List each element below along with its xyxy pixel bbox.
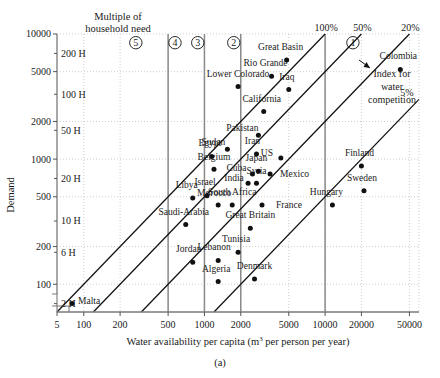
annotation-line1: Index for [374,68,412,79]
data-point-pakistan[interactable] [256,133,261,138]
data-point-libya[interactable] [190,195,195,200]
point-label-mexico: Mexico [280,169,309,179]
data-point-japan[interactable] [256,169,261,174]
x-axis-title: Water availability per capita (m3 per pe… [126,335,350,348]
household-multiple-label: 200 H [61,48,86,59]
data-point-rio-grande[interactable] [269,74,274,79]
index-arrow-head [364,62,371,68]
point-label-california: California [242,94,281,104]
annotation-line3: competition [368,94,416,105]
data-point-finland[interactable] [359,164,364,169]
data-point-tunisia[interactable] [236,250,241,255]
data-point-syria[interactable] [254,181,259,186]
band-index-label: 5 [133,37,138,48]
data-point-south-africa[interactable] [230,202,235,207]
data-point-lower-colorado[interactable] [236,84,241,89]
annotation-line2: water [381,81,404,92]
ratio-line-label: 20% [401,22,419,33]
point-label-israel: Israel [194,177,215,187]
x-tick-label: 2000 [231,319,251,330]
data-point-sudan[interactable] [225,147,230,152]
y-tick-label: 100 [36,279,51,290]
point-label-finland: Finland [345,148,374,158]
data-point-lebanon[interactable] [216,258,221,263]
household-multiple-label: 100 H [61,89,86,100]
data-point-great-basin[interactable] [284,57,289,62]
point-label-france: France [276,200,302,210]
data-point-algeria[interactable] [216,279,221,284]
point-label-saudi-arabia: Saudi-Arabia [158,207,209,217]
x-tick-label: 50000 [397,319,422,330]
band-index-label: 1 [350,37,355,48]
data-point-cuba[interactable] [250,172,255,177]
ratio-line-label: 50% [353,22,371,33]
point-label-sweden: Sweden [347,173,377,183]
data-point-sweden[interactable] [361,188,366,193]
x-tick-label: 200 [113,319,128,330]
y-tick-label: 200 [36,241,51,252]
y-axis-title: Demand [5,176,16,212]
data-point-iran[interactable] [254,151,259,156]
data-point-iraq[interactable] [286,87,291,92]
point-label-great-basin: Great Basin [258,42,303,52]
figure-container: 100%50%20%5%100200500100020005000100002 … [0,0,440,378]
point-label-algeria: Algeria [202,264,231,274]
figure-caption: (a) [214,357,226,369]
point-label-lower-colorado: Lower Colorado [207,69,270,79]
point-label-iraq: Iraq [279,72,295,82]
data-point-india[interactable] [246,181,251,186]
x-tick-label: 100 [76,319,91,330]
ratio-line-label: 100% [314,22,337,33]
point-label-pakistan: Pakistan [226,123,258,133]
x-tick-label: 20000 [349,319,374,330]
data-point-france[interactable] [260,202,265,207]
point-label-india: India [224,173,244,183]
point-label-cuba: Cuba [226,163,247,173]
point-label-denmark: Denmark [237,261,273,271]
header-note-line1: Multiple of [94,11,142,22]
axis-break-icon [52,294,57,306]
y-tick-label: 500 [36,191,51,202]
data-point-hungary[interactable] [330,202,335,207]
band-index-label: 2 [231,37,236,48]
point-label-sudan: Sudan [202,137,226,147]
point-label-us: US [261,148,273,158]
y-tick-label: 10000 [26,28,51,39]
band-index-label: 3 [195,37,200,48]
band-index-label: 4 [172,37,177,48]
household-multiple-label: 20 H [61,173,81,184]
point-label-south-africa: South Africa [208,187,257,197]
household-multiple-label: 50 H [61,125,81,136]
x-tick-label: 5 [55,319,60,330]
data-point-us[interactable] [278,156,283,161]
data-point-mexico[interactable] [268,172,273,177]
x-tick-label: 1000 [194,319,214,330]
data-point-belgium[interactable] [211,167,216,172]
data-point-malta[interactable] [70,301,75,306]
data-point-great-britain[interactable] [248,226,253,231]
x-tick-label: 10000 [313,319,338,330]
header-note-line2: household need [85,23,151,34]
data-point-morocco[interactable] [216,202,221,207]
point-label-hungary: Hungary [310,187,343,197]
y-tick-label: 2000 [31,116,51,127]
y-tick-label: 5000 [31,66,51,77]
point-label-belgium: Belgium [198,152,231,162]
point-label-great-britain: Great Britain [225,210,275,220]
x-tick-label: 5000 [279,319,299,330]
data-point-egypt[interactable] [209,154,214,159]
data-point-denmark[interactable] [252,277,257,282]
point-label-malta: Malta [78,296,101,306]
data-point-california[interactable] [261,109,266,114]
chart-svg: 100%50%20%5%100200500100020005000100002 … [0,0,440,378]
household-multiple-label: 6 H [61,247,76,258]
y-tick-label: 1000 [31,154,51,165]
data-point-saudi-arabia[interactable] [183,222,188,227]
x-tick-label: 500 [161,319,176,330]
point-label-rio-grande: Rio Grande [244,58,288,68]
household-multiple-label: 10 H [61,215,81,226]
data-point-jordan[interactable] [190,260,195,265]
point-label-lebanon: Lebanon [198,242,231,252]
point-label-colombia: Colombia [380,51,418,61]
